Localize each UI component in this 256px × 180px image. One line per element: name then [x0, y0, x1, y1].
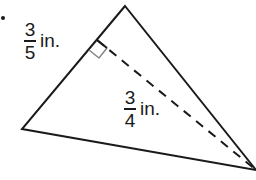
side-length-fraction: 3 5 — [24, 20, 36, 62]
height-denominator: 4 — [125, 111, 136, 130]
height-unit: in. — [140, 99, 160, 118]
height-fraction: 3 4 — [124, 88, 136, 130]
altitude-dashed-line — [97, 40, 256, 170]
right-angle-marker-gray — [89, 48, 107, 58]
bullet-dot — [1, 16, 5, 20]
side-length-numerator: 3 — [25, 20, 36, 39]
right-angle-marker-dark — [97, 40, 107, 48]
side-length-denominator: 5 — [25, 43, 36, 62]
side-length-unit: in. — [40, 31, 60, 50]
height-numerator: 3 — [125, 88, 136, 107]
